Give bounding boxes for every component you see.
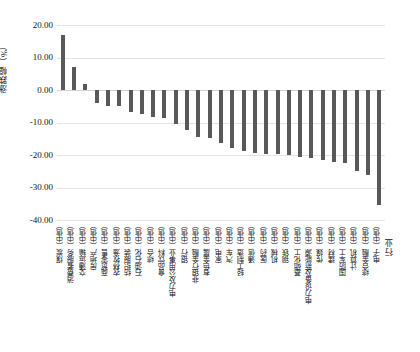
bar [140, 90, 144, 114]
y-tick-label: -40.00 [5, 216, 53, 225]
bar [242, 90, 246, 151]
bar [264, 90, 268, 154]
bar [72, 67, 76, 90]
bar [253, 90, 257, 153]
x-category-label: 电子（中信） [374, 222, 385, 263]
x-category-label: 商贸零售（中信） [102, 222, 113, 276]
x-category-label: 钢铁（中信） [283, 222, 294, 263]
bar [276, 90, 280, 154]
bar [377, 90, 381, 205]
bar [230, 90, 234, 148]
x-category-label: 综合（中信） [148, 222, 159, 263]
x-category-label: 计算机（中信） [351, 222, 362, 270]
y-tick-label: 10.00 [5, 53, 53, 62]
x-category-label: 消费者服务（中信） [68, 222, 79, 283]
x-axis-title: 行业 [386, 238, 399, 256]
x-category-label: 综合金融（中信） [363, 222, 374, 276]
bars-layer [57, 25, 385, 220]
x-category-label: 电力及公用事业（中信） [170, 222, 181, 297]
x-category-label: 建材（中信） [329, 222, 340, 263]
bar [208, 90, 212, 138]
bar [196, 90, 200, 137]
y-tick-label: 0.00 [5, 86, 53, 95]
bar [162, 90, 166, 118]
bar [151, 90, 155, 117]
bar [332, 90, 336, 162]
bar [117, 90, 121, 106]
bar [366, 90, 370, 175]
x-category-label: 传媒（中信） [317, 222, 328, 263]
bar-chart: 涨跌幅（%） 20.0010.000.00-10.00-20.00-30.00-… [0, 0, 420, 352]
y-axis-ticks: 20.0010.000.00-10.00-20.00-30.00-40.00 [0, 25, 53, 220]
bar [321, 90, 325, 160]
x-axis-categories: 煤炭（中信）消费者服务（中信）交通运输（中信）房地产（中信）商贸零售（中信）农林… [57, 222, 385, 348]
bar [95, 90, 99, 103]
bar [343, 90, 347, 163]
x-category-label: 通信（中信） [249, 222, 260, 263]
bar [309, 90, 313, 158]
x-category-label: 石油石化（中信） [136, 222, 147, 276]
bar [355, 90, 359, 171]
bar [185, 90, 189, 130]
bar [129, 90, 133, 112]
bar [219, 90, 223, 143]
y-tick-label: -10.00 [5, 118, 53, 127]
x-category-label: 银行（中信） [182, 222, 193, 263]
bar [287, 90, 291, 155]
y-tick-label: -20.00 [5, 151, 53, 160]
x-category-label: 家电（中信） [216, 222, 227, 263]
y-tick-label: -30.00 [5, 183, 53, 192]
bar [106, 90, 110, 106]
bar [61, 35, 65, 90]
bar [174, 90, 178, 124]
y-tick-label: 20.00 [5, 21, 53, 30]
bar [83, 84, 87, 90]
bar [298, 90, 302, 157]
x-category-label: 有色金属（中信） [204, 222, 215, 276]
